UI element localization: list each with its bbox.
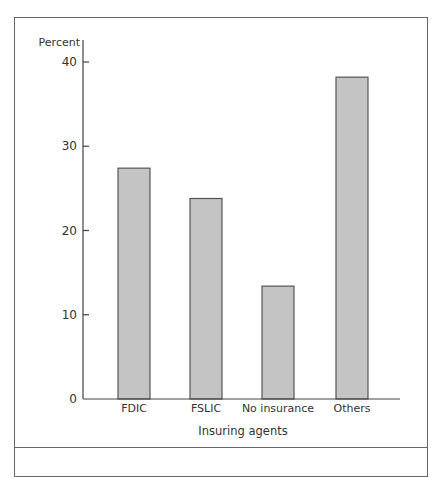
y-axis-label: Percent — [39, 36, 81, 49]
x-tick-label: Others — [334, 402, 371, 415]
y-tick-label: 0 — [69, 392, 77, 406]
y-tick-label: 30 — [62, 139, 77, 153]
x-tick-label: FDIC — [121, 402, 147, 415]
x-axis: FDICFSLICNo insuranceOthers — [83, 399, 400, 415]
y-axis: 010203040 — [62, 40, 89, 406]
bar-fslic — [190, 198, 222, 399]
bar-no-insurance — [262, 286, 294, 399]
bar-others — [336, 77, 368, 399]
y-tick-label: 10 — [62, 308, 77, 322]
x-tick-label: No insurance — [242, 402, 314, 415]
bar-fdic — [118, 168, 150, 399]
y-tick-label: 20 — [62, 224, 77, 238]
y-tick-label: 40 — [62, 55, 77, 69]
x-tick-label: FSLIC — [191, 402, 221, 415]
bars — [118, 77, 368, 399]
x-axis-label: Insuring agents — [198, 424, 287, 438]
